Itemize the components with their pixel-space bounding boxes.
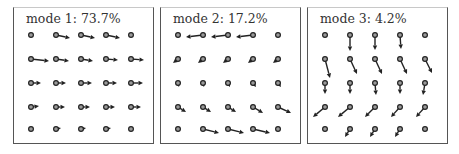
node-dot [129,81,134,86]
node-dot [423,33,428,38]
node-dot [251,81,256,86]
node-r0-c0 [176,33,181,38]
node-dot [104,127,109,132]
node-r3-c0 [176,105,186,112]
node-dot [323,33,328,38]
node-dot [398,57,403,62]
node-dot [54,57,59,62]
node-dot [348,57,353,62]
node-r4-c1 [201,127,219,134]
node-r0-c2 [373,33,378,50]
node-r3-c3 [104,105,115,110]
node-r3-c2 [365,105,377,117]
arrow-head-icon [88,58,93,62]
arrow-head-icon [236,34,241,38]
node-dot [176,57,181,62]
arrow-head-icon [115,35,120,39]
node-r0-c0 [29,33,34,38]
node-dot [201,33,206,38]
node-dot [201,105,206,110]
node-dot [226,105,231,110]
node-r2-c0 [176,81,181,87]
node-dot [398,33,403,38]
node-r4-c0 [29,127,34,132]
node-dot [398,105,403,110]
node-r0-c0 [323,33,328,38]
node-r1-c1 [198,57,205,63]
node-dot [373,105,378,110]
arrow-head-icon [137,105,142,109]
node-r3-c3 [391,105,402,117]
node-r3-c3 [251,105,263,113]
node-dot [79,127,84,132]
arrow-head-icon [348,90,352,95]
arrow-head-icon [62,81,67,85]
node-dot [54,127,59,132]
node-r0-c1 [186,33,205,39]
arrow-head-icon [64,58,69,62]
node-dot [348,105,353,110]
node-dot [29,81,34,86]
arrow-head-icon [348,47,352,52]
node-r4-c3 [395,127,402,137]
node-r1-c0 [323,57,331,78]
node-dot [226,81,231,86]
node-dot [251,127,256,132]
node-r3-c2 [79,105,90,110]
node-r2-c3 [251,81,256,87]
node-r4-c2 [79,127,86,132]
node-dot [104,33,109,38]
node-r0-c4 [276,33,281,38]
node-r0-c4 [129,33,134,38]
node-dot [276,81,281,86]
node-r0-c3 [236,33,255,39]
node-dot [348,127,353,132]
node-dot [129,57,134,62]
arrow-head-icon [88,81,93,85]
node-r0-c3 [104,33,120,40]
node-dot [423,127,428,132]
node-r0-c3 [398,33,403,49]
arrow-head-icon [422,90,426,95]
node-r4-c3 [104,127,111,132]
node-dot [79,81,84,86]
arrow-head-icon [186,34,191,38]
node-dot [348,33,353,38]
node-r4-c1 [345,127,352,137]
node-dot [176,81,181,86]
node-dot [423,81,428,86]
node-r3-c0 [29,104,39,109]
node-dot [276,105,281,110]
node-dot [398,127,403,132]
node-r4-c1 [54,127,61,132]
node-r2-c2 [79,81,92,86]
arrow-head-icon [211,34,216,38]
node-r3-c0 [313,105,327,117]
arrow-head-icon [113,57,118,61]
node-r2-c3 [398,81,403,94]
node-r1-c2 [223,57,230,63]
node-r1-c4 [129,57,144,62]
node-dot [201,57,206,62]
arrow-head-icon [214,130,219,134]
node-r1-c4 [273,57,280,63]
arrow-head-icon [61,105,66,109]
node-r4-c2 [370,127,377,137]
arrow-head-icon [111,105,116,109]
arrow-head-icon [90,35,95,39]
node-dot [323,57,328,62]
node-dot [54,33,59,38]
arrow-head-icon [373,90,377,95]
arrow-head-icon [239,130,244,134]
node-r0-c4 [423,33,428,38]
node-dot [226,127,231,132]
node-dot [373,127,378,132]
node-r1-c2 [373,57,382,74]
node-dot [29,105,34,110]
node-dot [54,81,59,86]
node-dot [104,105,109,110]
node-dot [251,105,256,110]
node-r3-c4 [276,105,291,114]
node-dot [129,127,134,132]
arrow-head-icon [139,81,144,85]
